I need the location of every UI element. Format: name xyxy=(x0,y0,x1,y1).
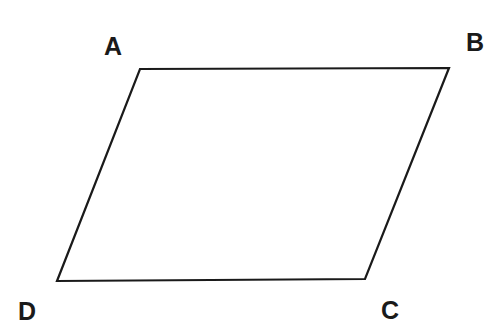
vertex-label-a: A xyxy=(104,34,122,59)
vertex-label-b: B xyxy=(466,30,484,55)
parallelogram-abcd xyxy=(57,68,449,281)
vertex-label-d: D xyxy=(18,299,36,324)
vertex-label-c: C xyxy=(381,298,399,323)
parallelogram-figure xyxy=(0,0,500,336)
